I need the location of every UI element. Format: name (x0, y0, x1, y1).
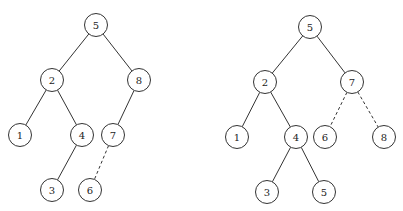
tree-edge (26, 90, 46, 125)
tree-node-3: 3 (256, 181, 279, 204)
tree-edge (103, 34, 132, 71)
dashed-edge (358, 92, 378, 127)
tree-node-5: 5 (313, 181, 336, 204)
tree-edge (58, 145, 77, 180)
tree-node-8: 8 (373, 126, 396, 149)
tree-node-4: 4 (71, 124, 94, 147)
tree-edge (58, 90, 77, 125)
node-label: 7 (110, 130, 116, 141)
dashed-edge (330, 92, 347, 126)
tree-diagram-canvas: 52814736527146835 (0, 0, 403, 211)
node-label: 3 (264, 187, 270, 198)
tree-node-5: 5 (299, 16, 322, 39)
tree-node-4: 4 (285, 126, 308, 149)
node-label: 5 (321, 187, 327, 198)
tree-node-6: 6 (314, 126, 337, 149)
node-label: 8 (136, 75, 142, 86)
tree-edge (118, 90, 134, 124)
tree-edge (272, 147, 290, 182)
node-label: 5 (93, 20, 99, 31)
tree-node-7: 7 (102, 124, 125, 147)
left-tree-edges (26, 34, 134, 180)
tree-node-2: 2 (41, 69, 64, 92)
node-label: 1 (17, 130, 23, 141)
tree-edge (272, 36, 302, 73)
node-label: 8 (381, 132, 387, 143)
tree-node-2: 2 (254, 71, 277, 94)
left-tree-nodes: 52814736 (9, 14, 151, 202)
node-label: 4 (293, 132, 299, 143)
node-label: 5 (307, 22, 313, 33)
right-tree-edges (242, 36, 378, 182)
tree-node-3: 3 (41, 179, 64, 202)
node-label: 4 (79, 130, 85, 141)
tree-node-6: 6 (79, 179, 102, 202)
tree-node-8: 8 (128, 69, 151, 92)
tree-node-7: 7 (341, 71, 364, 94)
node-label: 7 (349, 77, 355, 88)
node-label: 2 (262, 77, 268, 88)
dashed-edge (94, 146, 108, 180)
edges-layer (26, 34, 378, 182)
tree-node-1: 1 (226, 126, 249, 149)
tree-edge (59, 34, 89, 71)
node-label: 3 (49, 185, 55, 196)
tree-edge (271, 92, 291, 127)
tree-edge (242, 92, 260, 127)
tree-node-1: 1 (9, 124, 32, 147)
node-label: 6 (87, 185, 93, 196)
tree-edge (301, 147, 319, 182)
node-label: 6 (322, 132, 328, 143)
tree-node-5: 5 (85, 14, 108, 37)
tree-edge (317, 36, 345, 73)
node-label: 1 (234, 132, 240, 143)
nodes-layer: 52814736527146835 (9, 14, 396, 204)
node-label: 2 (49, 75, 55, 86)
